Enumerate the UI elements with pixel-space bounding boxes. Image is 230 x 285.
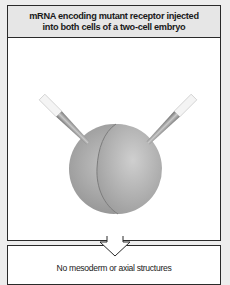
right-injection-needle-icon [145,94,197,146]
embryo-injection-illustration [0,0,230,245]
result-text: No mesoderm or axial structures [8,263,220,273]
down-arrow-icon [99,235,131,257]
left-injection-needle-icon [39,94,91,146]
